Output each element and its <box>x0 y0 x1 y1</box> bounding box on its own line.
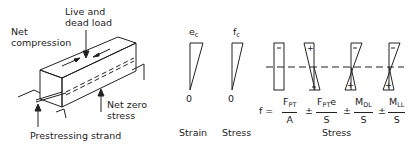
stress-diagram <box>232 43 243 90</box>
svg-text:+: + <box>347 81 354 90</box>
strain-caption: Strain <box>179 128 207 139</box>
term3-den: S <box>360 113 366 125</box>
label-net-compression-line2: compression <box>11 38 71 49</box>
strain-subscript: c <box>195 31 199 39</box>
term4-num-sub: LL <box>397 101 404 109</box>
label-prestressing-strand: Prestressing strand <box>30 131 121 142</box>
stress-zero-label: 0 <box>228 94 234 105</box>
equation-op1: ± <box>305 105 313 116</box>
equation-term-eccentric: FPTe S <box>316 96 337 125</box>
label-live-load: Live and dead load <box>65 7 112 28</box>
stress-caption: Stress <box>222 128 251 139</box>
stress-block-live-load: + <box>383 43 400 90</box>
svg-text:+: + <box>307 44 314 53</box>
label-live-load-line1: Live and <box>65 7 112 18</box>
strain-diagram <box>190 43 203 90</box>
stress-components-caption: Stress <box>322 128 351 139</box>
label-net-zero-line1: Net zero <box>107 100 147 111</box>
equation-op2: ± <box>343 105 351 116</box>
term2-num-suffix: e <box>330 96 336 107</box>
stress-top-label: fc <box>233 27 240 41</box>
term1-num-sub: PT <box>288 101 296 109</box>
svg-text:+: + <box>385 81 392 90</box>
equation-op3: ± <box>378 105 386 116</box>
strain-top-label: ec <box>189 27 198 41</box>
label-net-zero-stress: Net zero stress <box>107 100 147 121</box>
term1-den: A <box>286 113 293 125</box>
strain-zero-label: 0 <box>186 94 192 105</box>
term4-den: S <box>394 113 400 125</box>
label-net-compression-line1: Net <box>11 27 71 38</box>
label-net-compression: Net compression <box>11 27 71 48</box>
stress-subscript: c <box>236 31 240 39</box>
term3-num: M <box>355 96 363 107</box>
term2-den: S <box>324 113 330 125</box>
equation-term-prestress: FPT A <box>282 96 297 125</box>
label-live-load-line2: dead load <box>65 18 112 29</box>
term3-num-sub: DL <box>363 101 372 109</box>
equation-term-live-load: MLL S <box>388 96 405 125</box>
equation-term-dead-load: MDL S <box>354 96 373 125</box>
term4-num: M <box>389 96 397 107</box>
equation-lhs: f = <box>259 105 273 116</box>
label-net-zero-line2: stress <box>107 111 147 122</box>
